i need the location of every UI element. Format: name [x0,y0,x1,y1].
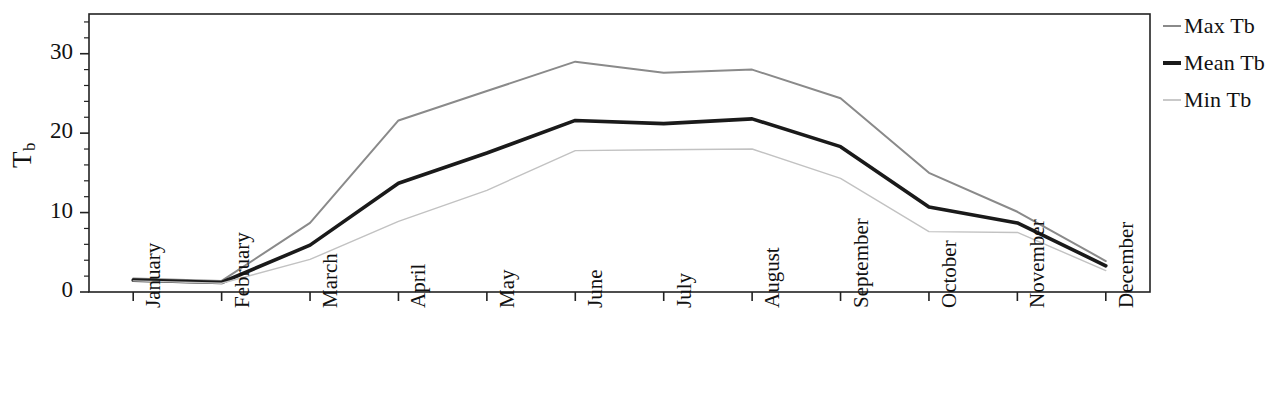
x-tick-label-june: June [583,270,608,309]
y-axis-ticks [80,22,89,292]
x-tick-label-september: September [849,218,874,308]
x-tick-label-august: August [760,247,785,308]
x-tick-label-february: February [230,232,255,308]
x-tick-label-november: November [1025,219,1050,308]
y-axis-title-base: T [7,151,37,168]
legend-item-max-tb[interactable]: Max Tb [1163,7,1278,44]
legend-swatch-icon [1163,25,1181,27]
chart-legend: Max TbMean TbMin Tb [1163,7,1278,118]
y-tick-label: 30 [1,39,73,65]
x-tick-label-march: March [318,253,343,308]
x-tick-label-december: December [1114,222,1139,308]
legend-swatch-icon [1163,99,1181,101]
legend-label: Min Tb [1184,87,1251,113]
legend-item-mean-tb[interactable]: Mean Tb [1163,44,1278,81]
legend-item-min-tb[interactable]: Min Tb [1163,81,1278,118]
x-tick-label-april: April [406,264,431,308]
y-tick-label: 0 [1,277,73,303]
x-tick-label-july: July [672,273,697,308]
x-tick-label-january: January [141,243,166,308]
x-tick-label-may: May [495,270,520,309]
y-tick-label: 20 [1,118,73,144]
legend-swatch-icon [1163,61,1181,65]
line-chart-canvas [0,0,1281,420]
legend-label: Mean Tb [1184,50,1265,76]
y-tick-label: 10 [1,198,73,224]
legend-label: Max Tb [1184,13,1255,39]
chart-figure: Tb 0102030 JanuaryFebruaryMarchAprilMayJ… [0,0,1281,420]
x-tick-label-october: October [937,240,962,308]
